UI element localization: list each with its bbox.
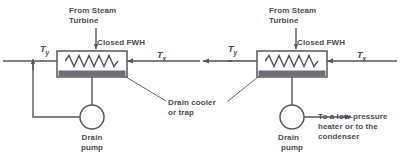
left-drain-pump-label: Drainpump	[78, 133, 106, 153]
right-drain-pump-symbol	[280, 105, 304, 129]
right-temp-in-label: Tx	[357, 50, 366, 64]
drain-cooler-callout-label: Drain cooleror trap	[168, 98, 216, 118]
right-temp-out-label: Ty	[228, 44, 237, 58]
left-temp-in-label: Tx	[157, 50, 166, 64]
left-steam-inlet-label-line2: Turbine	[69, 16, 98, 25]
right-heater-shell	[257, 51, 327, 77]
left-steam-inlet-label: From SteamTurbine	[69, 6, 116, 26]
left-drain-pump-label-line2: pump	[78, 143, 106, 153]
left-heater-label: Closed FWH	[97, 38, 145, 48]
right-outlet-label-line3: condenser	[318, 132, 359, 141]
right-steam-inlet-label: From SteamTurbine	[269, 6, 316, 26]
right-steam-inlet-label-line1: From Steam	[269, 6, 316, 15]
right-drain-pump-label: Drainpump	[278, 133, 306, 153]
drain-cooler-callout-line2: or trap	[168, 108, 194, 117]
left-steam-inlet-label-line1: From Steam	[69, 6, 116, 15]
right-outlet-label-line2: heater or to the	[318, 122, 378, 131]
right-drain-pump-label-line2: pump	[278, 143, 306, 153]
right-steam-inlet-label-line2: Turbine	[269, 16, 298, 25]
left-drain-pump-label-line1: Drain	[82, 133, 103, 142]
right-drain-pump-label-line1: Drain	[278, 133, 299, 142]
left-callout-leader	[126, 77, 166, 101]
left-heater-shell	[57, 51, 127, 77]
right-outlet-label-line1: To a low-pressure	[318, 112, 388, 121]
right-callout-leader	[228, 77, 258, 101]
diagram-canvas: From SteamTurbine Closed FWH Ty Tx Drain…	[0, 0, 400, 153]
left-temp-out-label: Ty	[40, 44, 49, 58]
drain-cooler-callout-line1: Drain cooler	[168, 98, 216, 107]
right-drain-cooler-band	[259, 71, 326, 77]
right-outlet-destination-label: To a low-pressureheater or to thecondens…	[318, 112, 388, 142]
left-drain-pump-symbol	[80, 105, 104, 129]
right-heater-label: Closed FWH	[297, 38, 345, 48]
left-drain-cooler-band	[59, 71, 126, 77]
